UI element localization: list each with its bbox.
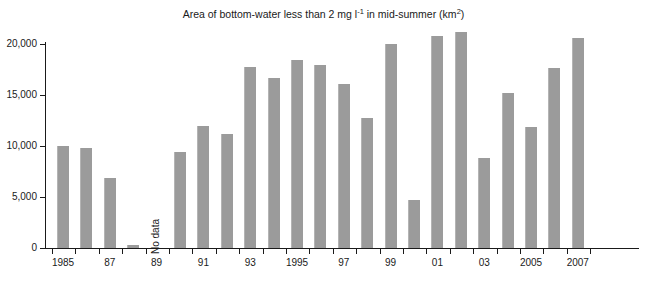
x-axis-tick xyxy=(403,249,404,254)
bar-1998 xyxy=(361,118,373,248)
bar-1999 xyxy=(385,44,397,248)
x-axis-tick xyxy=(309,249,310,254)
annotation-no-data: No data xyxy=(151,219,161,254)
x-axis-tick-label: 2005 xyxy=(520,257,542,268)
bar-2004 xyxy=(502,93,514,248)
x-axis-tick xyxy=(239,249,240,254)
bar-2001 xyxy=(431,36,443,248)
bar-1995 xyxy=(291,60,303,248)
x-axis-tick xyxy=(169,249,170,254)
bar-1991 xyxy=(197,126,209,248)
x-axis-tick xyxy=(75,249,76,254)
bar-1997 xyxy=(338,84,350,248)
x-axis-tick-label: 1995 xyxy=(286,257,308,268)
x-axis-tick xyxy=(356,249,357,254)
x-axis-tick xyxy=(52,249,53,254)
bar-2002 xyxy=(455,32,467,248)
bar-1987 xyxy=(104,178,116,248)
y-axis-tick-label: 20,000 xyxy=(0,39,37,49)
y-axis-tick xyxy=(40,248,45,249)
x-axis-tick xyxy=(263,249,264,254)
bar-1985 xyxy=(57,146,69,248)
x-axis-tick-label: 87 xyxy=(104,257,115,268)
plot-area xyxy=(45,44,639,248)
bar-2006 xyxy=(548,68,560,248)
x-axis-tick xyxy=(286,249,287,254)
bar-1992 xyxy=(221,134,233,248)
x-axis-tick-label: 97 xyxy=(338,257,349,268)
chart-figure: Area of bottom-water less than 2 mg l-1 … xyxy=(0,0,647,281)
x-axis-tick xyxy=(450,249,451,254)
x-axis-tick xyxy=(567,249,568,254)
x-axis-tick xyxy=(590,249,591,254)
x-axis-tick xyxy=(192,249,193,254)
x-axis-tick-label: 93 xyxy=(245,257,256,268)
x-axis-tick xyxy=(497,249,498,254)
x-axis-tick xyxy=(426,249,427,254)
chart-title-post: ) xyxy=(461,8,465,20)
x-axis-tick-label: 91 xyxy=(198,257,209,268)
x-axis-tick-label: 2007 xyxy=(567,257,589,268)
x-axis-tick xyxy=(146,249,147,254)
x-axis-tick xyxy=(380,249,381,254)
x-axis-tick-label: 1985 xyxy=(52,257,74,268)
chart-title: Area of bottom-water less than 2 mg l-1 … xyxy=(0,8,647,21)
y-axis-tick-label: 5,000 xyxy=(0,192,37,202)
chart-title-sup-units: -1 xyxy=(357,7,364,16)
x-axis-tick-label: 99 xyxy=(385,257,396,268)
x-axis-tick-label: 01 xyxy=(432,257,443,268)
x-axis-tick xyxy=(473,249,474,254)
x-axis-tick-label: 03 xyxy=(479,257,490,268)
bar-2005 xyxy=(525,127,537,248)
bar-2003 xyxy=(478,158,490,248)
bar-1996 xyxy=(314,65,326,248)
bar-2007 xyxy=(572,38,584,248)
bar-1990 xyxy=(174,152,186,248)
bar-2000 xyxy=(408,200,420,248)
x-axis-tick xyxy=(333,249,334,254)
chart-title-mid: in mid-summer (km xyxy=(364,8,457,20)
x-axis-tick xyxy=(216,249,217,254)
y-axis-tick-label: 0 xyxy=(0,243,37,253)
x-axis-tick xyxy=(122,249,123,254)
x-axis-line xyxy=(45,248,639,249)
bar-1993 xyxy=(244,67,256,248)
x-axis-tick xyxy=(99,249,100,254)
bar-1986 xyxy=(80,148,92,248)
y-axis-tick-label: 15,000 xyxy=(0,90,37,100)
x-axis-tick xyxy=(543,249,544,254)
x-axis-tick-label: 89 xyxy=(151,257,162,268)
bar-1994 xyxy=(268,78,280,248)
y-axis-tick-label: 10,000 xyxy=(0,141,37,151)
x-axis-tick xyxy=(520,249,521,254)
chart-title-pre: Area of bottom-water less than 2 mg l xyxy=(183,8,358,20)
bar-1988 xyxy=(127,245,139,248)
